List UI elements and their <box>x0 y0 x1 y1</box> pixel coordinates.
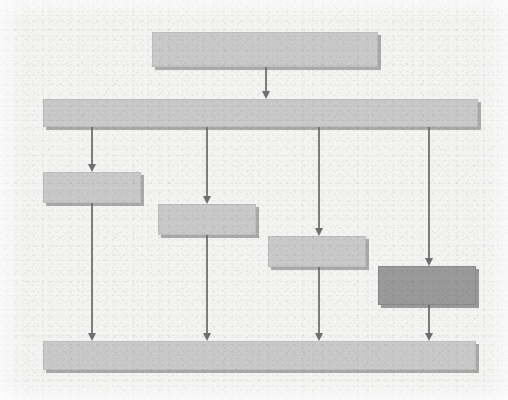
connector-line <box>428 127 430 259</box>
arrowhead-down-icon <box>88 333 96 341</box>
node-label <box>269 237 365 243</box>
branch-box-2[interactable] <box>158 204 256 235</box>
node-label <box>44 342 475 348</box>
connector-line <box>206 235 208 334</box>
connector-line <box>206 127 208 197</box>
arrowhead-down-icon <box>425 258 433 266</box>
node-label <box>44 173 140 179</box>
upper-wide-bar[interactable] <box>43 99 478 127</box>
connector-line <box>318 267 320 334</box>
connector-line <box>318 127 320 229</box>
branch-box-3[interactable] <box>268 236 366 267</box>
node-label <box>379 267 475 273</box>
branch-box-1[interactable] <box>43 172 141 203</box>
connector-line <box>91 203 93 334</box>
arrowhead-down-icon <box>88 164 96 172</box>
lower-wide-bar[interactable] <box>43 341 476 370</box>
node-label <box>44 100 477 106</box>
connector-line <box>91 127 93 165</box>
arrowhead-down-icon <box>203 333 211 341</box>
arrowhead-down-icon <box>315 228 323 236</box>
top-process-box[interactable] <box>152 32 378 67</box>
arrowhead-down-icon <box>203 196 211 204</box>
flowchart-canvas <box>0 0 508 400</box>
connector-line <box>428 305 430 334</box>
arrowhead-down-icon <box>262 91 270 99</box>
connector-line <box>265 67 267 92</box>
branch-box-4-highlighted[interactable] <box>378 266 476 305</box>
node-label <box>159 205 255 211</box>
arrowhead-down-icon <box>315 333 323 341</box>
node-label <box>153 33 377 39</box>
arrowhead-down-icon <box>425 333 433 341</box>
